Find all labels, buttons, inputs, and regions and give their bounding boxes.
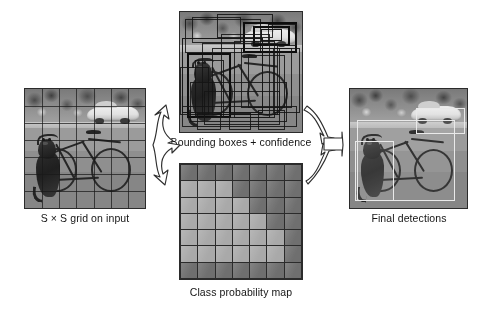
probability-cell-r7-c2 [198,263,214,278]
probability-cell-r6-c1 [181,246,197,261]
probability-cell-r5-c5 [250,230,266,245]
bicycle-front-wheel [414,149,453,192]
probability-cell-r7-c3 [216,263,232,278]
probability-cell-r1-c1 [181,165,197,180]
input-scene [25,89,145,208]
probability-cell-r1-c5 [250,165,266,180]
probability-cell-r6-c7 [285,246,301,261]
probability-cell-r5-c4 [233,230,249,245]
final-scene [350,89,467,208]
probability-cell-r7-c7 [285,263,301,278]
probability-cell-r3-c5 [250,198,266,213]
caption-grid-on-input: S × S grid on input [10,212,160,225]
probability-cell-r4-c2 [198,214,214,229]
car-object [411,106,461,121]
probability-cell-r4-c6 [267,214,283,229]
probability-cell-r3-c6 [267,198,283,213]
bicycle-seat [409,130,423,134]
caption-final-detections: Final detections [338,212,480,225]
probability-cell-r4-c5 [250,214,266,229]
probability-cell-r7-c1 [181,263,197,278]
dog-head [194,62,212,82]
probability-cell-r7-c6 [267,263,283,278]
boxes-scene [180,12,302,132]
dog-object [33,139,64,199]
probability-cell-r2-c7 [285,181,301,196]
panel-bounding-boxes [179,11,303,133]
dog-snout [42,142,47,145]
probability-cell-r4-c4 [233,214,249,229]
probability-cell-r3-c4 [233,198,249,213]
probability-cell-r3-c2 [198,198,214,213]
probability-cell-r7-c5 [250,263,266,278]
bicycle-crossbar [244,62,278,68]
dog-snout [367,142,372,145]
probability-cell-r3-c1 [181,198,197,213]
dog-head [363,139,381,159]
split-arrow-right-icon [150,104,182,186]
bicycle-seat [242,54,257,58]
class-probability-map [179,163,303,280]
probability-cell-r5-c3 [216,230,232,245]
probability-cell-r2-c1 [181,181,197,196]
probability-cell-r2-c2 [198,181,214,196]
probability-cell-r1-c7 [285,165,301,180]
probability-cell-r4-c1 [181,214,197,229]
bicycle-front-wheel [91,148,131,192]
probability-cell-r5-c7 [285,230,301,245]
probability-cell-r5-c2 [198,230,214,245]
dog-object [358,139,388,199]
probability-cell-r2-c3 [216,181,232,196]
probability-cell-r1-c6 [267,165,283,180]
probability-cell-r6-c5 [250,246,266,261]
bicycle-front-wheel [247,71,288,116]
car-object [87,106,139,121]
probability-cell-r3-c3 [216,198,232,213]
dog-head [38,139,56,159]
probability-cell-r3-c7 [285,198,301,213]
panel-grid-on-input [24,88,146,209]
car-wheel-rear [418,118,427,124]
probability-cell-r7-c4 [233,263,249,278]
dog-ear-right [47,137,51,141]
car-wheel-rear [95,118,104,124]
merge-arrow-right-icon [300,104,344,186]
probability-cell-r6-c6 [267,246,283,261]
bicycle-crossbar [88,138,121,144]
probability-cell-r5-c6 [267,230,283,245]
probability-cell-r4-c3 [216,214,232,229]
probability-cell-r1-c4 [233,165,249,180]
caption-class-probability-map: Class probability map [171,286,311,299]
probability-cell-r6-c4 [233,246,249,261]
probability-cell-r5-c1 [181,230,197,245]
car-object [243,29,295,45]
dog-snout [198,66,204,69]
bicycle-seat [86,130,101,134]
panel-final-detections [349,88,468,209]
probability-cell-r2-c6 [267,181,283,196]
car-wheel-front [443,118,452,124]
probability-cell-r1-c2 [198,165,214,180]
car-wheel-front [120,118,129,124]
probability-cell-r2-c4 [233,181,249,196]
probability-cell-r6-c3 [216,246,232,261]
dog-object [189,62,221,122]
probability-cell-r2-c5 [250,181,266,196]
probability-cell-r6-c2 [198,246,214,261]
probability-cell-r1-c3 [216,165,232,180]
bicycle-crossbar [411,138,444,143]
probability-cell-r4-c7 [285,214,301,229]
yolo-pipeline-figure: S × S grid on input [0,0,488,316]
